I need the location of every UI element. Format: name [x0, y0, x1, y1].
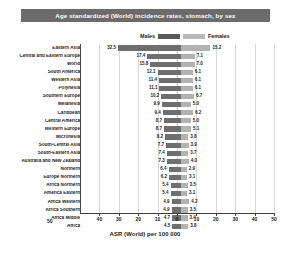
category-label: Central America: [12, 119, 84, 124]
female-bar: [181, 62, 195, 67]
category-label: Melanesia: [12, 102, 84, 107]
category-label: Europe Northern: [12, 175, 84, 180]
bar-lane: 8.75.0: [84, 117, 278, 125]
bar-lane: 11.46.1: [84, 76, 278, 84]
bar-lane: 5.43.1: [84, 190, 278, 198]
female-value: 6.1: [195, 70, 201, 75]
bar-lane: 7.43.7: [84, 149, 278, 157]
male-group: 5.4: [162, 182, 181, 190]
female-bar: [181, 175, 187, 180]
male-bar: [164, 126, 181, 131]
category-label: South America: [12, 70, 84, 75]
female-bar: [181, 224, 188, 229]
male-group: 11.1: [149, 84, 181, 92]
x-axis-ticks: 4030201001020304050: [80, 213, 274, 223]
male-bar: [158, 70, 181, 75]
female-bar: [181, 110, 193, 115]
female-group: 6.1: [181, 84, 201, 92]
female-value: 5.1: [193, 127, 199, 132]
female-group: 7.0: [181, 60, 203, 68]
table-row: Western Asia11.46.1: [12, 76, 278, 84]
legend-swatch-males: [158, 34, 180, 39]
table-row: Western Europe8.75.1: [12, 125, 278, 133]
male-value: 4.9: [163, 208, 169, 213]
male-value: 11.1: [149, 86, 158, 91]
male-group: 10.2: [150, 93, 181, 101]
table-row: Central America8.75.0: [12, 117, 278, 125]
female-group: 7.1: [181, 52, 203, 60]
female-bar: [181, 102, 191, 107]
male-bar: [118, 45, 181, 50]
table-row: Southern Europe10.26.7: [12, 93, 278, 101]
female-value: 15.2: [212, 46, 221, 51]
male-bar: [171, 183, 181, 188]
table-row: Australia and New Zealand7.34.0: [12, 157, 278, 165]
bar-lane: 12.16.1: [84, 68, 278, 76]
bar-lane: 9.95.0: [84, 101, 278, 109]
male-bar: [161, 94, 181, 99]
male-value: 4.9: [163, 200, 169, 205]
male-bar: [150, 62, 181, 67]
male-group: 4.9: [163, 198, 181, 206]
female-group: 3.7: [181, 149, 196, 157]
male-value: 11.4: [148, 78, 157, 83]
x-tick-label: 30: [232, 216, 238, 222]
female-value: 6.7: [196, 94, 202, 99]
bar-lane: 6.23.1: [84, 174, 278, 182]
female-value: 5.0: [193, 119, 199, 124]
female-bar: [181, 143, 189, 148]
x-tick-label: 30: [116, 216, 122, 222]
male-group: 7.7: [158, 141, 181, 149]
male-value: 7.4: [158, 151, 164, 156]
female-bar: [181, 70, 193, 75]
bar-lane: 7.73.9: [84, 141, 278, 149]
female-value: 5.0: [193, 102, 199, 107]
bar-rows: Eastern Asia32.515.2Central and Eastern …: [12, 44, 278, 216]
female-value: 3.8: [190, 224, 196, 229]
x-tick-label: 10: [155, 216, 161, 222]
category-label: Western Asia: [12, 78, 84, 83]
table-row: Africa Western4.94.2: [12, 198, 278, 206]
table-row: South-Eastern Asia7.43.7: [12, 149, 278, 157]
male-bar: [172, 207, 182, 212]
legend-swatch-females: [183, 34, 205, 39]
female-group: 3.5: [181, 182, 196, 190]
bar-lane: 6.42.9: [84, 165, 278, 173]
female-bar: [181, 191, 187, 196]
male-value: 9.9: [154, 102, 160, 107]
table-row: Africa Northern5.43.5: [12, 182, 278, 190]
x-tick-label: 40: [97, 216, 103, 222]
table-row: South-Central Asia7.73.9: [12, 141, 278, 149]
female-bar: [181, 167, 187, 172]
female-group: 4.0: [181, 157, 197, 165]
female-value: 3.1: [189, 191, 195, 196]
female-bar: [181, 45, 210, 50]
male-bar: [169, 175, 181, 180]
category-label: Africa Western: [12, 200, 84, 205]
x-tick-label: 0: [176, 216, 179, 222]
bar-lane: 8.23.8: [84, 133, 278, 141]
female-group: 3.1: [181, 190, 195, 198]
male-group: 15.8: [140, 60, 181, 68]
category-label: Eastern Asia: [12, 46, 84, 51]
female-group: 5.0: [181, 117, 199, 125]
female-group: 3.9: [181, 141, 197, 149]
female-bar: [181, 78, 193, 83]
female-group: 3.8: [181, 133, 197, 141]
female-value: 2.9: [189, 167, 195, 172]
male-bar: [171, 191, 181, 196]
male-value: 6.4: [160, 167, 166, 172]
category-label: South-Eastern Asia: [12, 151, 84, 156]
male-group: 12.1: [147, 68, 181, 76]
category-label: Western Europe: [12, 127, 84, 132]
table-row: Caribbean9.46.2: [12, 109, 278, 117]
male-group: 32.5: [107, 44, 181, 52]
male-value: 32.5: [107, 46, 116, 51]
x-tick-label: 50: [271, 216, 277, 222]
male-group: 8.7: [156, 117, 181, 125]
male-bar: [164, 118, 181, 123]
female-group: 3.1: [181, 174, 195, 182]
category-label: Polynesia: [12, 86, 84, 91]
page-title: Age standardized (World) incidence rates…: [55, 12, 235, 19]
female-value: 3.5: [190, 208, 196, 213]
